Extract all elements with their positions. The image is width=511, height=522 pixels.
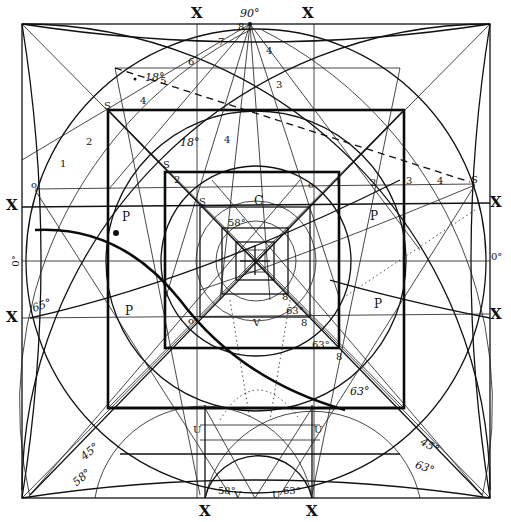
point-8-outer: 8 bbox=[336, 352, 342, 362]
point-o-inner: o bbox=[188, 316, 194, 326]
point-u-right: U bbox=[314, 425, 322, 435]
point-s-mid: S bbox=[163, 160, 170, 170]
angle-18-inner: 18° bbox=[180, 137, 200, 148]
scale-right-3a: 3 bbox=[276, 80, 282, 90]
point-u-bottom: U bbox=[272, 490, 280, 500]
scale-right-4: 4 bbox=[437, 176, 443, 186]
point-8-mid: 8 bbox=[301, 318, 307, 328]
x-marker-top-right: X bbox=[302, 6, 314, 21]
scale-top-6: 6 bbox=[188, 57, 194, 67]
point-o-left: o bbox=[31, 180, 37, 190]
scale-right-1: 1 bbox=[335, 178, 341, 188]
point-p-right-upper: P bbox=[370, 210, 378, 222]
scale-inner-4: 4 bbox=[224, 135, 230, 145]
point-v-bottom: V bbox=[234, 490, 241, 500]
x-marker-bottom-left: X bbox=[199, 504, 211, 519]
scale-right-2: 2 bbox=[370, 178, 376, 188]
x-marker-left-lower: X bbox=[6, 310, 18, 325]
scale-left-1: 1 bbox=[60, 159, 66, 169]
point-s-outer: S bbox=[104, 101, 111, 111]
point-c-center: C bbox=[254, 195, 263, 207]
point-u-left: U bbox=[193, 425, 201, 435]
scale-top-4: 4 bbox=[140, 96, 146, 106]
point-v-center: V bbox=[253, 318, 260, 328]
scale-top-8a: 8 bbox=[238, 22, 244, 32]
point-8-inner: 8 bbox=[282, 292, 288, 302]
x-marker-left-upper: X bbox=[6, 198, 18, 213]
x-marker-right-lower: X bbox=[490, 307, 502, 322]
scale-left-2: 2 bbox=[86, 137, 92, 147]
top-angle-label: 90° bbox=[240, 8, 260, 19]
point-p-left-lower: P bbox=[125, 305, 133, 317]
angle-58-center: 58° bbox=[228, 218, 246, 228]
point-p-left-upper: P bbox=[122, 211, 130, 223]
point-s-right: S bbox=[471, 175, 478, 185]
angle-63-center-a: 63° bbox=[286, 306, 304, 316]
right-zero-label: 0° bbox=[491, 252, 502, 262]
scale-right-4a: 4 bbox=[266, 46, 272, 56]
x-marker-right-upper: X bbox=[490, 195, 502, 210]
scale-top-7: 7 bbox=[218, 37, 224, 47]
point-o-right: o bbox=[308, 180, 314, 190]
x-marker-bottom-right: X bbox=[306, 504, 318, 519]
scale-inner-2: 2 bbox=[174, 175, 180, 185]
point-p-right-lower: P bbox=[374, 298, 382, 310]
x-marker-top-left: X bbox=[191, 6, 203, 21]
scale-right-3: 3 bbox=[406, 176, 412, 186]
angle-63-mid: 63° bbox=[350, 386, 370, 397]
point-s-inner: S bbox=[199, 197, 206, 207]
scale-top-5: 5 bbox=[160, 76, 166, 86]
left-zero-label: 0° bbox=[11, 255, 21, 266]
angle-63-center-b: 63° bbox=[312, 340, 330, 350]
angle-63-bottom: 63° bbox=[283, 486, 301, 496]
